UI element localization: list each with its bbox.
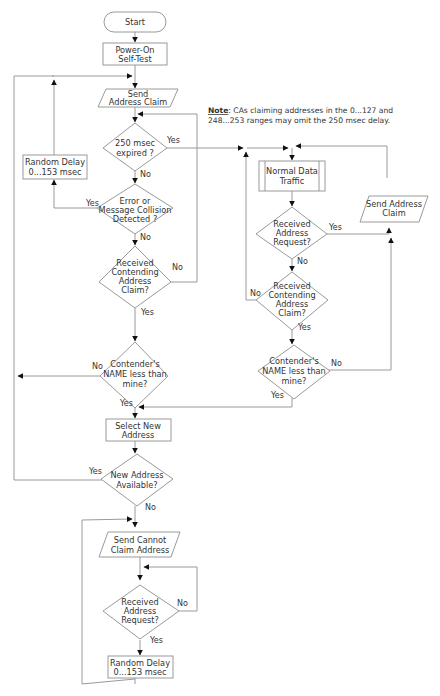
node-send-claim-line2: Address Claim — [109, 97, 167, 107]
node-address-request-2: Received Address Request? — [103, 585, 179, 639]
node-rd1-line1: Random Delay — [25, 157, 85, 167]
note-line2: 248...253 ranges may omit the 250 msec d… — [208, 116, 390, 125]
node-normal-line1: Normal Data — [266, 166, 318, 176]
note-text-1: : CAs claiming addresses in the 0...127 … — [228, 106, 393, 115]
connectors — [14, 32, 391, 684]
node-normal-line2: Traffic — [279, 176, 305, 186]
flowchart: Start Power-On Self-Test Send Address Cl… — [0, 0, 440, 696]
node-avail-line2: Available? — [116, 480, 157, 490]
edge-contend2-no — [246, 152, 259, 300]
label-avail-no: No — [145, 503, 156, 512]
label-namecmp2-no: No — [331, 359, 342, 368]
node-normal-data-traffic: Normal Data Traffic — [259, 161, 325, 191]
label-contend1-yes: Yes — [140, 308, 154, 317]
node-name-compare-2: Contender's NAME less than mine? — [258, 345, 330, 399]
label-namecmp1-yes: Yes — [119, 399, 133, 408]
node-recv2-line3: Request? — [121, 615, 159, 625]
node-rd2-line2: 0...153 msec — [113, 667, 166, 677]
label-error-no: No — [140, 233, 151, 242]
node-namecmp2-line1: Contender's — [269, 356, 318, 366]
node-error-collision: Error or Message Collision Detected ? — [97, 184, 173, 234]
node-send-cannot-claim: Send Cannot Claim Address — [99, 532, 180, 557]
node-namecmp1-line3: mine? — [123, 379, 148, 389]
label-error-yes: Yes — [85, 199, 99, 208]
node-avail-line1: New Address — [110, 470, 163, 480]
note-label: Note — [208, 106, 228, 115]
node-start-label: Start — [125, 17, 146, 27]
node-namecmp1-line2: NAME less than — [103, 369, 167, 379]
node-name-compare-1: Contender's NAME less than mine? — [100, 342, 168, 408]
node-timer-line1: 250 msec — [115, 138, 155, 148]
note: Note: CAs claiming addresses in the 0...… — [208, 106, 393, 125]
label-timer-no: No — [140, 170, 151, 179]
label-recv2-no: No — [177, 599, 188, 608]
node-contending-claim-1: Received Contending Address Claim? — [99, 246, 171, 308]
label-contend1-no: No — [172, 263, 183, 272]
label-namecmp2-yes: Yes — [270, 391, 284, 400]
edge-namecmp2-no — [325, 238, 391, 370]
node-timer-expired: 250 msec expired ? — [103, 123, 167, 171]
node-send-address-claim: Send Address Claim — [98, 89, 178, 107]
label-contend2-yes: Yes — [297, 323, 311, 332]
edge-restart-loop — [14, 76, 132, 400]
node-select-line2: Address — [122, 430, 155, 440]
edge-namecmp2-yes — [139, 398, 292, 407]
label-avail-yes: Yes — [88, 467, 102, 476]
node-cannot-line2: Claim Address — [111, 545, 169, 555]
node-contend2-line4: Claim? — [278, 308, 306, 318]
node-new-address-available: New Address Available? — [101, 454, 173, 506]
node-power-on-self-test: Power-On Self-Test — [103, 43, 167, 65]
node-post-line2: Self-Test — [118, 54, 152, 64]
node-contend1-line4: Claim? — [121, 285, 149, 295]
label-namecmp1-no: No — [92, 362, 103, 371]
node-random-delay-1: Random Delay 0...153 msec — [23, 155, 87, 179]
note-line1: Note: CAs claiming addresses in the 0...… — [208, 106, 393, 115]
node-recv1-line3: Request? — [273, 237, 311, 247]
node-start: Start — [104, 12, 166, 32]
label-recv1-no: No — [297, 257, 308, 266]
node-address-request-1: Received Address Request? — [256, 207, 327, 259]
node-select-new-address: Select New Address — [106, 419, 171, 441]
label-recv2-yes: Yes — [149, 636, 163, 645]
node-cannot-line1: Send Cannot — [114, 535, 167, 545]
node-error-line3: Detected ? — [113, 214, 157, 224]
node-send-address-claim-2: Send Address Claim — [360, 196, 428, 222]
node-contending-claim-2: Received Contending Address Claim? — [256, 272, 328, 330]
label-timer-yes: Yes — [166, 136, 180, 145]
node-random-delay-2: Random Delay 0...153 msec — [108, 656, 173, 678]
node-namecmp2-line2: NAME less than — [262, 366, 326, 376]
label-contend2-no: No — [250, 289, 261, 298]
node-rd1-line2: 0...153 msec — [28, 167, 81, 177]
label-recv1-yes: Yes — [328, 223, 342, 232]
node-namecmp1-line1: Contender's — [110, 359, 159, 369]
node-namecmp2-line3: mine? — [282, 376, 307, 386]
node-timer-line2: expired ? — [116, 148, 154, 158]
node-claim2-line2: Claim — [382, 208, 405, 218]
